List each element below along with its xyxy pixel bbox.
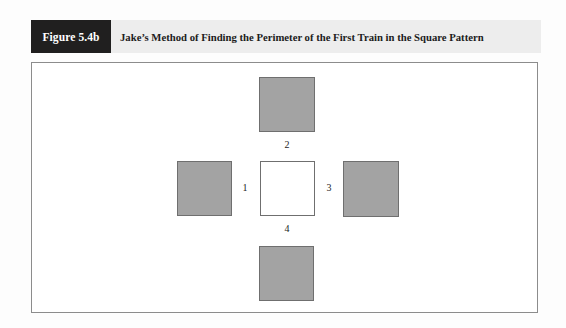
figure-content-panel: 2 1 3 4 xyxy=(31,62,538,313)
figure-caption-bar: Figure 5.4b Jake’s Method of Finding the… xyxy=(31,20,541,53)
figure-number-tag: Figure 5.4b xyxy=(31,20,111,53)
square-left-shaded xyxy=(177,161,232,216)
side-label-2: 2 xyxy=(280,139,294,150)
figure-container: Figure 5.4b Jake’s Method of Finding the… xyxy=(0,0,566,328)
square-top-shaded xyxy=(259,77,315,132)
side-label-3: 3 xyxy=(322,182,336,193)
figure-caption-text: Jake’s Method of Finding the Perimeter o… xyxy=(111,20,541,53)
square-right-shaded xyxy=(343,161,399,217)
square-bottom-shaded xyxy=(259,246,314,301)
square-center-hollow xyxy=(260,161,315,216)
side-label-4: 4 xyxy=(280,223,294,234)
side-label-1: 1 xyxy=(238,182,252,193)
